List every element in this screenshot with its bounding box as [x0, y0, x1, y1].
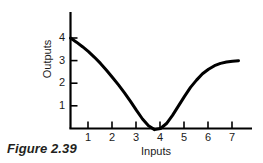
y-tick-label-1: 1 — [53, 100, 65, 111]
data-curve — [71, 38, 239, 130]
y-tick-label-3: 3 — [53, 55, 65, 66]
x-tick-label-3: 3 — [129, 132, 143, 143]
x-tick-label-5: 5 — [177, 132, 191, 143]
x-tick-label-2: 2 — [105, 132, 119, 143]
x-tick-label-4: 4 — [153, 132, 167, 143]
x-tick-label-6: 6 — [201, 132, 215, 143]
y-axis-label: Outputs — [40, 36, 54, 82]
y-tick-label-2: 2 — [53, 77, 65, 88]
x-tick-label-1: 1 — [81, 132, 95, 143]
x-tick-label-7: 7 — [225, 132, 239, 143]
y-tick-label-4: 4 — [53, 32, 65, 43]
figure-container: 4 3 2 1 1 2 3 4 5 6 7 Outputs Inputs Fig… — [0, 0, 263, 163]
x-axis-label: Inputs — [126, 145, 186, 157]
figure-caption: Figure 2.39 — [7, 141, 77, 156]
